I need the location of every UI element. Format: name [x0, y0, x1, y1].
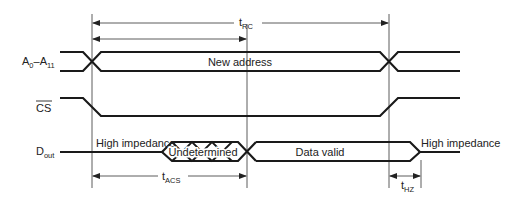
undetermined-label: Undetermined	[168, 146, 237, 158]
cs-waveform	[60, 98, 460, 116]
trc-label: tRC	[239, 16, 253, 31]
timing-diagram: tRC A0–A11 New address CS Dout High impe…	[0, 0, 508, 202]
signal-label-address: A0–A11	[22, 55, 55, 70]
trc-dimension: tRC	[93, 16, 388, 31]
data-valid-label: Data valid	[296, 146, 345, 158]
signal-label-cs: CS	[36, 102, 51, 114]
thz-dimension: tHZ	[390, 176, 420, 194]
high-impedance-left-label: High impedance	[96, 137, 176, 149]
new-address-label: New address	[208, 56, 273, 68]
thz-label: tHZ	[401, 179, 414, 194]
high-impedance-right-label: High impedance	[421, 137, 501, 149]
signal-label-dout: Dout	[36, 145, 55, 160]
tacs-label: tACS	[162, 170, 180, 185]
tacs-dimension: tACS	[93, 170, 246, 185]
